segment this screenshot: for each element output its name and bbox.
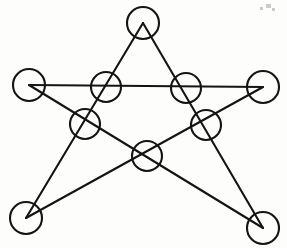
star-lines-group [26,23,263,228]
star-line-bottom-left-to-top [26,23,143,218]
scan-speck-icon [260,7,263,10]
star-line-top-to-bottom-right [143,23,263,228]
intersection-circle-upper-left [91,72,121,102]
pentagram-diagram [0,0,287,248]
scan-artifacts-group [260,4,275,11]
figure-canvas [0,0,287,248]
intersection-circle-mid-left [70,109,100,139]
scan-speck-icon [266,4,271,8]
outer-vertex-circles-group [10,7,279,244]
scan-speck-icon [272,8,275,11]
star-line-right-to-bottom-left [26,87,263,218]
star-line-left-to-right [29,85,263,87]
